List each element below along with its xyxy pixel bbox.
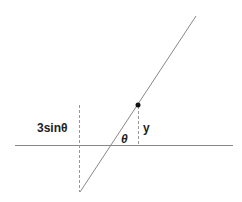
diagram-canvas: 3sinθ y θ [0, 0, 242, 202]
left-height-label: 3sinθ [37, 121, 68, 135]
right-height-label: y [143, 121, 150, 135]
angle-label: θ [121, 132, 128, 146]
point-marker [136, 103, 141, 108]
